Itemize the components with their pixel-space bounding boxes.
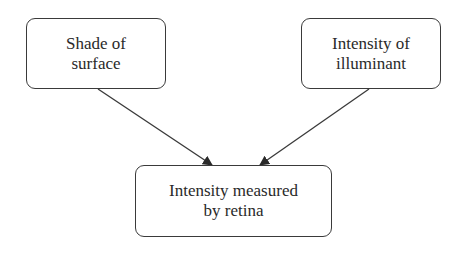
node-intensity-measured-by-retina: Intensity measured by retina (135, 165, 332, 237)
node-label-line: by retina (204, 201, 264, 221)
node-label-line: Intensity measured (169, 181, 298, 201)
edge-shade-to-retina (98, 89, 212, 165)
node-shade-of-surface: Shade of surface (26, 18, 166, 89)
node-label-line: Intensity of (332, 34, 410, 54)
node-label-line: Shade of (66, 34, 126, 54)
node-label-line: surface (71, 54, 120, 74)
node-intensity-of-illuminant: Intensity of illuminant (301, 18, 441, 89)
edge-illuminant-to-retina (260, 89, 369, 165)
node-label-line: illuminant (336, 54, 406, 74)
